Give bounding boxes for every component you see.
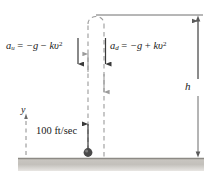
accel-up-term1: −g — [26, 40, 38, 51]
physics-diagram: au = −g − kυ2 ad = −g + kυ2 h y 100 ft/s… — [0, 0, 215, 178]
initial-speed-label: 100 ft/sec — [36, 126, 77, 137]
accel-up-exponent: 2 — [59, 40, 62, 47]
ground — [18, 159, 204, 172]
y-axis-label: y — [21, 105, 25, 115]
accel-down-term2: kυ — [153, 40, 162, 51]
projectile-ball — [84, 148, 93, 157]
accel-down-exponent: 2 — [163, 40, 166, 47]
accel-up-operator: − — [38, 40, 49, 51]
height-label: h — [185, 81, 191, 92]
apex-arc — [88, 17, 104, 25]
diagram-canvas — [0, 0, 215, 178]
accel-down-operator: + — [142, 40, 153, 51]
accel-up-equals: = — [15, 40, 26, 51]
accel-up-term2: kυ — [49, 40, 58, 51]
acceleration-down-equation: ad = −g + kυ2 — [110, 41, 166, 52]
accel-down-term1: −g — [130, 40, 142, 51]
accel-down-equals: = — [119, 40, 130, 51]
height-dimension-line — [196, 16, 201, 158]
acceleration-up-equation: au = −g − kυ2 — [6, 41, 62, 52]
y-axis-reference — [24, 114, 28, 156]
